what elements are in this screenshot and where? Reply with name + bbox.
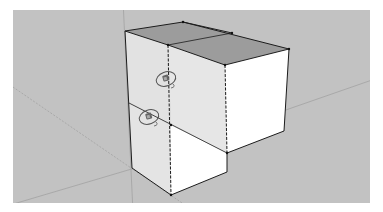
upper-box-front-face — [225, 49, 289, 153]
model-viewport[interactable]: 3D Modeling Viewport — [13, 10, 370, 203]
